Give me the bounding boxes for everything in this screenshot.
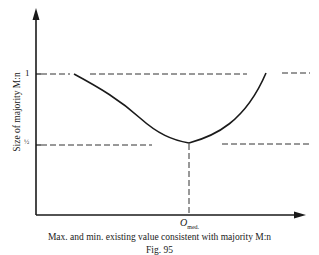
x-marker-omed: Omed. <box>180 217 199 230</box>
y-axis-label: Size of majority M:n <box>12 57 22 167</box>
figure-caption: Fig. 95 <box>0 245 319 255</box>
x-axis-label: Max. and min. existing value consistent … <box>0 232 319 242</box>
majority-curve <box>74 73 266 143</box>
x-marker-subscript: med. <box>187 224 199 230</box>
y-axis-label-text: Size of majority M:n <box>12 72 22 151</box>
y-axis-arrow-icon <box>33 8 40 20</box>
x-axis-arrow-icon <box>294 212 306 219</box>
figure-canvas <box>0 0 319 255</box>
y-tick-label-1: 1 <box>25 68 30 78</box>
y-tick-label-half: ½ <box>24 139 29 146</box>
